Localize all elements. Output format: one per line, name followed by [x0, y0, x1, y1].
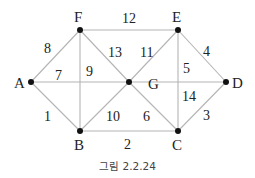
edge-weight-F-B: 9 — [86, 64, 93, 79]
edge-B-G — [80, 82, 129, 131]
node-label-G: G — [148, 76, 159, 92]
node-B — [77, 128, 83, 134]
node-label-D: D — [232, 75, 243, 91]
edge-weight-E-G: 11 — [140, 45, 153, 60]
node-label-A: A — [14, 75, 25, 91]
node-C — [175, 128, 181, 134]
weighted-graph-diagram: 8711213911541410623 AFEDGBC — [0, 0, 255, 178]
node-D — [223, 79, 229, 85]
edge-weight-F-E: 12 — [122, 11, 136, 26]
node-E — [175, 27, 181, 33]
edge-weight-B-C: 2 — [124, 137, 131, 152]
edge-weight-F-G: 13 — [108, 45, 122, 60]
edge-weight-E-D: 4 — [203, 44, 210, 59]
edge-weight-G-D: 14 — [182, 89, 196, 104]
edge-E-G — [129, 30, 178, 82]
node-label-C: C — [172, 137, 182, 153]
edge-weight-C-D: 3 — [203, 108, 210, 123]
edge-weight-A-G: 7 — [55, 68, 62, 83]
node-label-F: F — [74, 9, 82, 25]
edge-A-B — [31, 82, 80, 131]
node-G — [126, 79, 132, 85]
edge-weight-B-G: 10 — [106, 109, 120, 124]
edge-weight-A-F: 8 — [44, 41, 51, 56]
figure-caption: 그림 2.2.24 — [0, 158, 255, 173]
edge-weight-E-C: 5 — [183, 61, 190, 76]
edge-weight-G-C: 6 — [143, 109, 150, 124]
node-F — [77, 27, 83, 33]
node-label-E: E — [172, 9, 181, 25]
node-A — [28, 79, 34, 85]
edge-weight-A-B: 1 — [44, 109, 51, 124]
node-label-B: B — [74, 137, 84, 153]
